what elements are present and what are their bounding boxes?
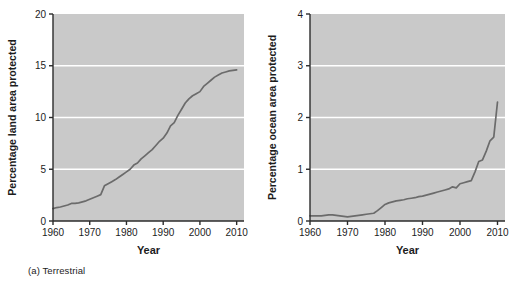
y-tick-label: 10: [35, 112, 47, 123]
terrestrial-line-chart: 05101520196019701980199020002010YearPerc…: [0, 0, 262, 290]
x-tick-label: 2000: [189, 227, 212, 238]
x-tick-label: 1970: [336, 227, 359, 238]
x-tick-label: 1980: [374, 227, 397, 238]
panel-caption-terrestrial: (a) Terrestrial: [28, 265, 85, 276]
y-tick-label: 0: [297, 216, 303, 227]
y-tick-label: 3: [297, 60, 303, 71]
x-tick-label: 1970: [79, 227, 102, 238]
x-tick-label: 1980: [115, 227, 138, 238]
marine-line-chart: 01234196019701980199020002010YearPercent…: [262, 0, 524, 290]
figure-container: 05101520196019701980199020002010YearPerc…: [0, 0, 524, 290]
y-tick-label: 1: [297, 164, 303, 175]
chart-panel-terrestrial: 05101520196019701980199020002010YearPerc…: [0, 0, 262, 290]
y-axis-title: Percentage ocean area protected: [266, 35, 278, 200]
y-tick-label: 15: [35, 60, 47, 71]
y-tick-label: 20: [35, 9, 47, 20]
x-tick-label: 2010: [486, 227, 509, 238]
x-axis-title: Year: [396, 244, 420, 256]
x-tick-label: 2010: [226, 227, 249, 238]
x-tick-label: 1990: [411, 227, 434, 238]
y-tick-label: 4: [297, 9, 303, 20]
x-tick-label: 2000: [449, 227, 472, 238]
x-tick-label: 1990: [152, 227, 175, 238]
x-tick-label: 1960: [299, 227, 322, 238]
y-tick-label: 2: [297, 112, 303, 123]
y-axis-title: Percentage land area protected: [6, 39, 18, 195]
chart-panel-marine: 01234196019701980199020002010YearPercent…: [262, 0, 524, 290]
y-tick-label: 0: [40, 216, 46, 227]
x-axis-title: Year: [137, 244, 161, 256]
x-tick-label: 1960: [42, 227, 65, 238]
y-tick-label: 5: [40, 164, 46, 175]
